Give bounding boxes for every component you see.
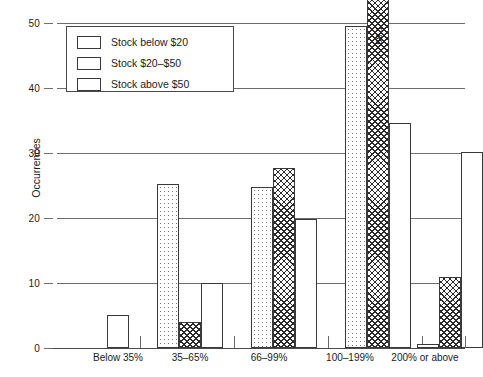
- x-axis-label-100-199: 100–199%: [326, 352, 374, 363]
- legend-label-stock-above-50: Stock above $50: [111, 78, 189, 90]
- bar-100-199-stock-above-50: [389, 123, 411, 348]
- y-tick-label-0: 0: [34, 343, 40, 354]
- bar-100-199-stock-20-50: 58.1: [367, 0, 389, 348]
- legend-swatch-dotted-icon: [77, 36, 101, 49]
- y-tick-label-10: 10: [28, 278, 40, 289]
- x-axis-label-35-65: 35–65%: [172, 352, 209, 363]
- bar-200-above-stock-20-50: [439, 277, 461, 348]
- y-tick-50: [44, 23, 53, 24]
- legend-item-stock-above-50: Stock above $50: [77, 74, 233, 94]
- bar-100-199-stock-below-20: [345, 26, 367, 348]
- legend-label-stock-20-50: Stock $20–$50: [111, 57, 181, 69]
- bar-200-above-stock-above-50: [461, 152, 483, 348]
- bar-below-35-stock-above-50: [107, 315, 129, 348]
- chart-legend: Stock below $20 Stock $20–$50 Stock abov…: [66, 26, 234, 92]
- legend-item-stock-20-50: Stock $20–$50: [77, 53, 233, 73]
- bar-35-65-stock-above-50: [201, 283, 223, 348]
- bar-35-65-stock-20-50: [179, 322, 201, 348]
- x-axis-label-66-99: 66–99%: [251, 352, 288, 363]
- x-axis-label-200-above: 200% or above: [391, 352, 458, 363]
- y-tick-label-20: 20: [28, 213, 40, 224]
- y-tick-20: [44, 218, 53, 219]
- legend-item-stock-below-20: Stock below $20: [77, 32, 233, 52]
- bar-value-label-58-1: 58.1: [373, 26, 384, 45]
- y-tick-30: [44, 153, 53, 154]
- bar-66-99-stock-20-50: [273, 168, 295, 348]
- y-tick-0: [44, 348, 53, 349]
- x-axis-label-below-35: Below 35%: [93, 352, 143, 363]
- bar-200-above-stock-below-20: [417, 344, 439, 348]
- y-tick-40: [44, 88, 53, 89]
- axis-baseline: [52, 348, 465, 349]
- legend-label-stock-below-20: Stock below $20: [111, 36, 188, 48]
- y-tick-label-40: 40: [28, 83, 40, 94]
- y-tick-10: [44, 283, 53, 284]
- category-separator-1: [140, 336, 141, 348]
- category-separator-5: [465, 336, 466, 348]
- legend-swatch-open-icon: [77, 78, 101, 91]
- legend-swatch-crosshatch-icon: [77, 57, 101, 70]
- category-separator-3: [328, 336, 329, 348]
- bar-66-99-stock-below-20: [251, 187, 273, 348]
- bar-66-99-stock-above-50: [295, 219, 317, 348]
- gridline-50: [57, 23, 465, 24]
- category-separator-2: [234, 336, 235, 348]
- y-tick-label-50: 50: [28, 18, 40, 29]
- bar-35-65-stock-below-20: [157, 184, 179, 348]
- y-tick-label-30: 30: [28, 148, 40, 159]
